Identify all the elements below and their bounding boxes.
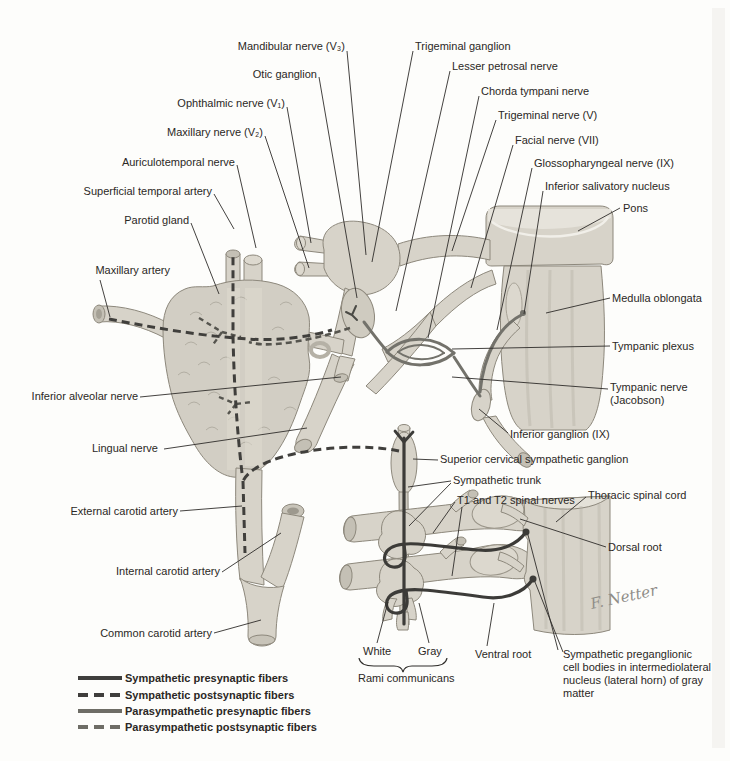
label-maxillary-nerve-v2: Maxillary nerve (V₂): [167, 126, 263, 139]
legend-swatch-sympathetic-presynaptic: [78, 676, 122, 680]
label-mandibular-nerve-v3: Mandibular nerve (V₃): [238, 40, 345, 53]
label-chorda-tympani-nerve: Chorda tympani nerve: [481, 85, 589, 98]
label-inferior-salivatory-nucleus: Inferior salivatory nucleus: [545, 180, 670, 193]
label-inferior-ganglion-ix: Inferior ganglion (IX): [510, 428, 610, 441]
label-inferior-alveolar-nerve: Inferior alveolar nerve: [32, 390, 138, 403]
label-trigeminal-ganglion: Trigeminal ganglion: [415, 40, 511, 53]
external-carotid-artery: [236, 468, 264, 585]
label-superior-cervical-sympathetic-ganglion: Superior cervical sympathetic ganglion: [440, 453, 628, 466]
label-common-carotid-artery: Common carotid artery: [100, 627, 212, 640]
label-facial-nerve-vii: Facial nerve (VII): [515, 134, 599, 147]
preganglionic-cell-body-t2: [530, 576, 537, 583]
label-rami-communicans: Rami communicans: [358, 672, 455, 685]
label-t1-t2-spinal-nerves: T1 and T2 spinal nerves: [457, 494, 575, 507]
label-gray-ramus: Gray: [418, 645, 442, 658]
legend-swatch-parasympathetic-presynaptic: [78, 709, 122, 713]
label-auriculotemporal-nerve: Auriculotemporal nerve: [122, 156, 235, 169]
label-internal-carotid-artery: Internal carotid artery: [116, 565, 220, 578]
label-otic-ganglion: Otic ganglion: [253, 68, 317, 81]
label-lingual-nerve: Lingual nerve: [92, 442, 158, 455]
legend-label-parasympathetic-postsynaptic: Parasympathetic postsynaptic fibers: [125, 721, 317, 734]
label-dorsal-root: Dorsal root: [608, 541, 662, 554]
label-parotid-gland: Parotid gland: [124, 214, 189, 227]
label-pons: Pons: [623, 202, 648, 215]
preganglionic-cell-body-t1: [523, 529, 530, 536]
scan-artifact: [712, 8, 725, 748]
legend-label-sympathetic-postsynaptic: Sympathetic postsynaptic fibers: [125, 689, 294, 702]
maxillary-artery: [98, 306, 170, 338]
netter-parotid-autonomic-diagram: Mandibular nerve (V₃) Otic ganglion Opht…: [0, 0, 730, 761]
label-lesser-petrosal-nerve: Lesser petrosal nerve: [452, 60, 558, 73]
legend-swatch-parasympathetic-postsynaptic: [78, 725, 122, 729]
artery-cut-end: [226, 250, 240, 258]
label-maxillary-artery: Maxillary artery: [95, 264, 170, 277]
trigeminal-ganglion: [323, 221, 400, 295]
label-ophthalmic-nerve-v1: Ophthalmic nerve (V₁): [177, 97, 285, 110]
label-ventral-root: Ventral root: [475, 648, 531, 661]
label-medulla-oblongata: Medulla oblongata: [612, 292, 702, 305]
label-superficial-temporal-artery: Superficial temporal artery: [84, 185, 212, 198]
legend-label-parasympathetic-presynaptic: Parasympathetic presynaptic fibers: [125, 705, 311, 718]
label-white-ramus: White: [363, 645, 391, 658]
label-external-carotid-artery: External carotid artery: [70, 505, 178, 518]
rami-brace: [359, 658, 447, 672]
legend-label-sympathetic-presynaptic: Sympathetic presynaptic fibers: [125, 672, 288, 685]
label-tympanic-plexus: Tympanic plexus: [612, 340, 694, 353]
label-trigeminal-nerve-v: Trigeminal nerve (V): [498, 109, 597, 122]
label-sympathetic-trunk: Sympathetic trunk: [453, 474, 541, 487]
label-glossopharyngeal-nerve-ix: Glossopharyngeal nerve (IX): [534, 157, 674, 170]
internal-carotid-artery: [261, 513, 304, 590]
legend-swatch-sympathetic-postsynaptic: [78, 693, 122, 697]
label-tympanic-nerve-jacobson: Tympanic nerve (Jacobson): [610, 381, 688, 407]
label-sympathetic-preganglionic: Sympathetic preganglionic cell bodies in…: [563, 648, 711, 700]
label-thoracic-spinal-cord: Thoracic spinal cord: [588, 489, 686, 502]
inferior-salivatory-nucleus: [520, 310, 526, 316]
